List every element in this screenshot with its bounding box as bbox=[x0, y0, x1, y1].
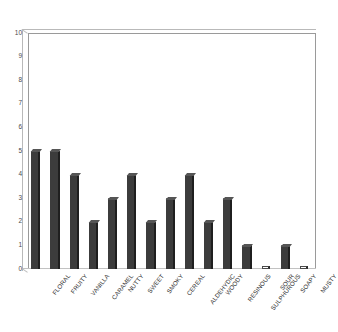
x-axis-tick-label: MUSTY bbox=[319, 273, 338, 294]
y-axis-tick-label: 10 bbox=[15, 30, 22, 37]
bar-top-face bbox=[31, 149, 42, 152]
y-axis-tick-label: 6 bbox=[18, 124, 22, 131]
bar-top-face bbox=[204, 220, 215, 223]
bar[interactable] bbox=[223, 198, 232, 269]
bars-layer bbox=[28, 33, 316, 269]
bar[interactable] bbox=[50, 151, 59, 269]
x-axis-tick-label: CEREAL bbox=[186, 273, 207, 297]
y-axis-tick-label: 8 bbox=[18, 77, 22, 84]
bar[interactable] bbox=[108, 198, 117, 269]
y-axis-tick-label: 5 bbox=[18, 148, 22, 155]
y-axis-tick-label: 3 bbox=[18, 195, 22, 202]
bar-slot bbox=[297, 33, 316, 269]
x-axis-tick-label: SWEET bbox=[146, 273, 165, 295]
bar-top-face bbox=[70, 173, 81, 176]
bar-slot bbox=[143, 33, 162, 269]
bar-slot bbox=[47, 33, 66, 269]
bar-slot bbox=[239, 33, 258, 269]
x-axis-tick-label: VANILLA bbox=[90, 273, 111, 297]
bar-top-face bbox=[50, 149, 61, 152]
bar[interactable] bbox=[146, 222, 155, 269]
bar-top-face bbox=[242, 244, 253, 247]
bar-top-face bbox=[127, 173, 138, 176]
bar-slot bbox=[86, 33, 105, 269]
bar-slot bbox=[124, 33, 143, 269]
bar-slot bbox=[220, 33, 239, 269]
bar[interactable] bbox=[281, 245, 290, 269]
bar-slot bbox=[105, 33, 124, 269]
bar[interactable] bbox=[262, 266, 270, 269]
bar[interactable] bbox=[242, 245, 251, 269]
bar[interactable] bbox=[31, 151, 40, 269]
bar-slot bbox=[28, 33, 47, 269]
bar-top-face bbox=[223, 197, 234, 200]
x-axis-tick-label: FRUITY bbox=[70, 273, 89, 295]
x-axis-tick-label: FLORAL bbox=[51, 273, 71, 296]
bar-slot bbox=[258, 33, 277, 269]
bar[interactable] bbox=[166, 198, 175, 269]
bar-top-face bbox=[281, 244, 292, 247]
bar-slot bbox=[162, 33, 181, 269]
y-axis-tick-label: 4 bbox=[18, 171, 22, 178]
bar[interactable] bbox=[70, 175, 79, 269]
x-axis: FLORALFRUITYVANILLACARAMELNUTTYSWEETSMOK… bbox=[28, 271, 316, 332]
bar[interactable] bbox=[300, 266, 308, 269]
y-axis-tick-label: 9 bbox=[18, 53, 22, 60]
bar-top-face bbox=[89, 220, 100, 223]
bar-slot bbox=[182, 33, 201, 269]
bar-slot bbox=[278, 33, 297, 269]
y-axis-tick-label: 1 bbox=[18, 242, 22, 249]
bar[interactable] bbox=[89, 222, 98, 269]
y-axis-tick-label: 7 bbox=[18, 100, 22, 107]
y-axis-tick-label: 0 bbox=[18, 266, 22, 273]
bar[interactable] bbox=[185, 175, 194, 269]
bar-slot bbox=[201, 33, 220, 269]
bar-top-face bbox=[108, 197, 119, 200]
x-axis-tick-label: SOAPY bbox=[300, 273, 318, 294]
x-axis-tick-label: SMOKY bbox=[166, 273, 185, 295]
bar-top-face bbox=[146, 220, 157, 223]
bar[interactable] bbox=[127, 175, 136, 269]
y-axis-tick-label: 2 bbox=[18, 218, 22, 225]
bar-slot bbox=[66, 33, 85, 269]
x-axis-tick-label: RESINOUS bbox=[247, 273, 272, 303]
bar-top-face bbox=[185, 173, 196, 176]
bar-top-face bbox=[166, 197, 177, 200]
y-axis: 109876543210 bbox=[0, 0, 28, 332]
bar[interactable] bbox=[204, 222, 213, 269]
